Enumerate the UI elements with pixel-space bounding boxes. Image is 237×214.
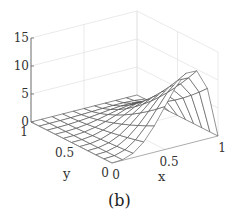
- svg-text:0: 0: [112, 168, 120, 182]
- svg-text:1: 1: [20, 125, 28, 139]
- svg-text:0.5: 0.5: [55, 146, 74, 160]
- figure-caption: (b): [108, 191, 131, 210]
- svg-text:0: 0: [101, 166, 109, 180]
- svg-text:5: 5: [21, 87, 29, 101]
- svg-text:15: 15: [14, 31, 29, 45]
- surface-plot: 05101500.5100.51 x y (b): [0, 0, 237, 214]
- y-axis-label: y: [62, 166, 71, 181]
- x-axis-label: x: [158, 169, 166, 184]
- svg-text:10: 10: [14, 59, 29, 73]
- svg-text:1: 1: [218, 141, 226, 155]
- svg-text:0.5: 0.5: [159, 155, 178, 169]
